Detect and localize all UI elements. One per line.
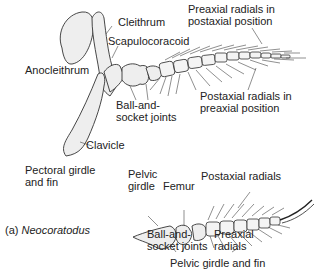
taxon-name: Neocoratodus: [22, 224, 91, 236]
label-postaxial-radials: Postaxial radials: [201, 170, 281, 182]
label-clavicle: Clavicle: [86, 139, 125, 151]
label-cleithrum: Cleithrum: [118, 16, 165, 28]
label-preaxial-radials-1: Preaxial: [214, 228, 254, 240]
label-postaxial-in-preaxial-2: preaxial position: [200, 102, 280, 114]
label-ball-socket-pelvic-2: socket joints: [147, 240, 208, 252]
label-scapulocoracoid: Scapulocoracoid: [108, 35, 189, 47]
label-postaxial-in-preaxial-1: Postaxial radials in: [200, 90, 292, 102]
label-femur: Femur: [163, 180, 195, 192]
label-anocleithrum: Anocleithrum: [25, 64, 89, 76]
caption-pectoral-2: and fin: [25, 176, 58, 188]
label-ball-socket-pectoral-2: socket joints: [116, 111, 177, 123]
caption-pelvic: Pelvic girdle and fin: [170, 257, 265, 269]
label-ball-socket-pectoral-1: Ball-and-: [116, 99, 160, 111]
label-preaxial-radials-2: radials: [214, 240, 246, 252]
panel-label: (a) Neocoratodus: [5, 224, 90, 236]
caption-pectoral-1: Pectoral girdle: [25, 164, 95, 176]
anocleithrum-bone: [60, 12, 93, 64]
panel-letter: (a): [5, 224, 18, 236]
label-preaxial-in-postaxial-2: postaxial position: [188, 15, 272, 27]
label-pelvic-girdle-1: Pelvic: [128, 168, 157, 180]
label-pelvic-girdle-2: girdle: [128, 180, 155, 192]
label-ball-socket-pelvic-1: Ball-and-: [147, 228, 191, 240]
pectoral-basal-bone: [122, 64, 149, 86]
label-preaxial-in-postaxial-1: Preaxial radials in: [188, 3, 275, 15]
